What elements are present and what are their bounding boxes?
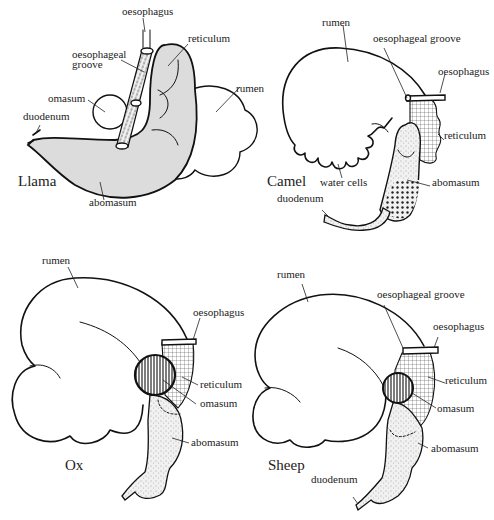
llama-label-rumen: rumen [236,82,265,94]
sheep-label-oesophagus: oesophagus [433,320,484,332]
llama-label-abomasum: abomasum [89,196,137,208]
camel-label-water-cells: water cells [320,176,367,188]
ox-abomasum-shape [122,395,183,500]
camel-panel: rumen oesophageal groove oesophagus reti… [267,16,489,230]
sheep-omasum-shape [383,373,413,403]
sheep-label-oesophageal-groove: oesophageal groove [377,288,465,300]
camel-label-abomasum: abomasum [432,176,480,188]
camel-label-reticulum: reticulum [444,129,487,141]
ox-label-oesophagus: oesophagus [193,306,244,318]
ox-title: Ox [65,457,84,473]
llama-label-oesophagus: oesophagus [122,5,173,17]
sheep-label-abomasum: abomasum [431,442,479,454]
ox-label-reticulum: reticulum [200,378,243,390]
camel-label-oesophagus: oesophagus [438,65,489,77]
stomach-comparison-diagram: oesophagus reticulum oesophageal groove … [0,0,494,520]
ox-panel: rumen oesophagus reticulum omasum abomas… [12,254,244,500]
ox-label-omasum: omasum [200,397,238,409]
camel-label-duodenum: duodenum [277,192,324,204]
ox-label-abomasum: abomasum [191,436,239,448]
camel-label-oesophageal-groove: oesophageal groove [373,32,461,44]
sheep-abomasum-shape [356,403,423,510]
llama-label-omasum: omasum [48,92,86,104]
llama-label-reticulum: reticulum [188,32,231,44]
llama-label-duodenum: duodenum [23,110,70,122]
llama-panel: oesophagus reticulum oesophageal groove … [18,5,265,208]
llama-label-groove: groove [72,58,103,70]
sheep-label-reticulum: reticulum [445,374,488,386]
camel-title: Camel [267,173,306,189]
sheep-label-rumen: rumen [277,268,306,280]
sheep-panel: rumen oesophageal groove oesophagus reti… [253,268,488,510]
ox-omasum-shape [135,355,175,395]
llama-title: Llama [18,173,57,189]
sheep-title: Sheep [268,457,305,473]
sheep-label-duodenum: duodenum [311,473,358,485]
sheep-label-omasum: omasum [437,402,475,414]
camel-label-rumen: rumen [322,16,351,28]
ox-label-rumen: rumen [42,254,71,266]
